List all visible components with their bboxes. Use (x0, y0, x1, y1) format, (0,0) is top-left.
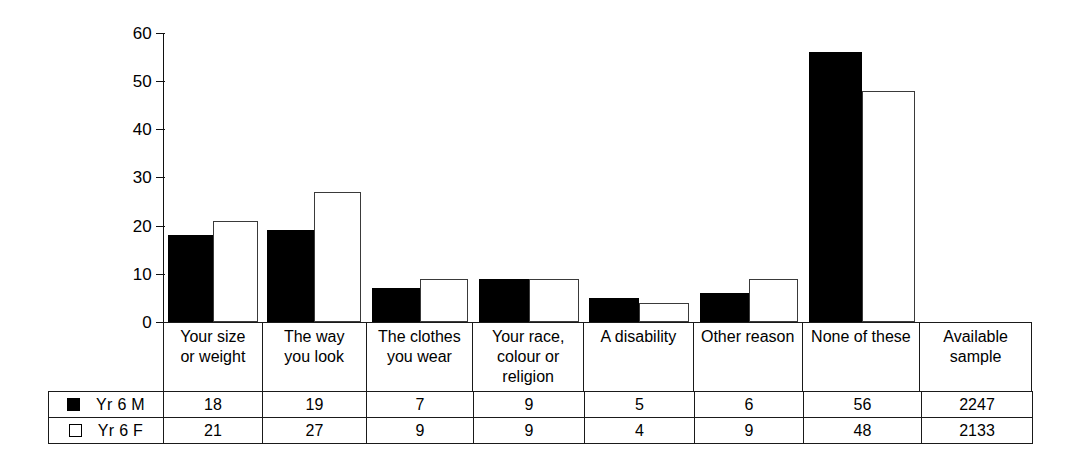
table-row: Yr 6 M 18 19 7 9 5 6 56 2247 (49, 392, 1033, 418)
table-cell: 9 (695, 418, 804, 444)
category-line: or weight (164, 347, 262, 367)
category-header-cell: Other reason (694, 323, 803, 392)
category-line: The clothes (367, 327, 473, 347)
table-cell: 2133 (922, 418, 1033, 444)
y-tick-mark-60 (156, 33, 165, 34)
legend-label: Yr 6 M (96, 396, 145, 413)
legend-label: Yr 6 F (98, 422, 143, 439)
table-cell: 21 (164, 418, 263, 444)
plot-area: 60 50 40 30 20 10 0 (0, 0, 1079, 325)
y-tick-mark-40 (156, 129, 165, 130)
category-line: Other reason (694, 327, 802, 347)
y-tick-mark-50 (156, 81, 165, 82)
category-line: Your size (164, 327, 262, 347)
y-tick-label-20: 20 (106, 218, 152, 235)
bar-female (314, 192, 361, 322)
bar-male (809, 52, 862, 322)
bar-male (372, 288, 420, 322)
data-table: Yr 6 M 18 19 7 9 5 6 56 2247 Yr 6 F 21 2… (48, 391, 1033, 444)
category-header-cell: The way you look (263, 323, 367, 392)
bar-female (529, 279, 579, 322)
filled-square-icon (67, 398, 80, 411)
category-line: sample (920, 347, 1031, 367)
y-tick-label-50: 50 (106, 73, 152, 90)
bar-female (639, 303, 689, 322)
y-tick-label-30: 30 (106, 169, 152, 186)
table-cell: 27 (263, 418, 367, 444)
y-tick-label-0: 0 (106, 314, 152, 331)
table-cell: 9 (474, 392, 585, 418)
table-cell: 5 (585, 392, 695, 418)
y-tick-label-60: 60 (106, 25, 152, 42)
category-line: A disability (584, 327, 693, 347)
table-cell: 18 (164, 392, 263, 418)
category-header-row: Your size or weight The way you look The… (163, 322, 1032, 392)
category-line: religion (473, 367, 583, 387)
category-header-cell: A disability (584, 323, 694, 392)
bar-female (862, 91, 915, 322)
legend-cell-female: Yr 6 F (49, 418, 164, 444)
bar-female (749, 279, 798, 322)
bar-male (267, 230, 314, 322)
table-cell: 4 (585, 418, 695, 444)
category-line: you look (263, 347, 366, 367)
hollow-square-icon (69, 424, 82, 437)
y-tick-mark-20 (156, 226, 165, 227)
table-cell: 6 (695, 392, 804, 418)
table-cell: 7 (367, 392, 474, 418)
category-line: colour or (473, 347, 583, 367)
table-cell: 2247 (922, 392, 1033, 418)
bar-male (479, 279, 529, 322)
category-header-cell: Your size or weight (164, 323, 263, 392)
table-cell: 19 (263, 392, 367, 418)
table-row: Yr 6 F 21 27 9 9 4 9 48 2133 (49, 418, 1033, 444)
y-tick-mark-10 (156, 274, 165, 275)
category-header-cell: Available sample (920, 323, 1031, 392)
legend-cell-male: Yr 6 M (49, 392, 164, 418)
category-line: None of these (803, 327, 920, 347)
bar-female (420, 279, 468, 322)
y-axis-line (163, 33, 164, 323)
bar-male (700, 293, 749, 322)
category-header-cell: Your race, colour or religion (473, 323, 584, 392)
category-header-cell: The clothes you wear (367, 323, 474, 392)
table-cell: 48 (804, 418, 922, 444)
table-cell: 9 (474, 418, 585, 444)
y-tick-label-10: 10 (106, 266, 152, 283)
table-cell: 56 (804, 392, 922, 418)
category-line: The way (263, 327, 366, 347)
chart-figure: 60 50 40 30 20 10 0 Your size or weight … (0, 0, 1079, 462)
category-header-cell: None of these (803, 323, 921, 392)
y-tick-mark-30 (156, 177, 165, 178)
category-line: you wear (367, 347, 473, 367)
category-line: Available (920, 327, 1031, 347)
table-cell: 9 (367, 418, 474, 444)
bar-male (168, 235, 213, 322)
bar-male (589, 298, 639, 322)
y-tick-label-40: 40 (106, 121, 152, 138)
bar-female (213, 221, 258, 322)
category-line: Your race, (473, 327, 583, 347)
